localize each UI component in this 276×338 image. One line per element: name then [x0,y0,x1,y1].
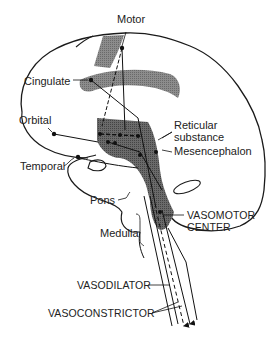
label-vasoconstrictor: VASOCONSTRICTOR [48,307,155,319]
label-pons: Pons [90,194,115,206]
orbital-dot [52,132,56,136]
temporal-dot [76,155,80,159]
label-motor: Motor [117,13,145,25]
label-temporal: Temporal [20,160,65,172]
mesencephalon-dot-2 [113,141,117,145]
label-vasodilator: VASODILATOR [77,279,151,291]
reticular-dot-3 [136,134,140,138]
cingulate-region [80,70,180,98]
vasomotor-dot [158,210,162,214]
mesencephalon-dot-4 [154,150,158,154]
cingulate-dot [89,78,93,82]
label-orbital: Orbital [19,114,51,126]
pons-leader [118,192,130,200]
label-medulla: Medulla [100,227,139,239]
mesencephalon-dot-1 [106,140,110,144]
orbital-pathway [54,134,98,142]
mesencephalon-dot-3 [138,153,142,157]
tract-line-5 [168,228,197,320]
motor-region [94,35,124,68]
orbital-leader [48,128,52,132]
label-vasomotor-2: CENTER [187,221,231,233]
label-vasomotor-1: VASOMOTOR [187,209,255,221]
reticular-leader [158,132,172,140]
reticular-dot-2 [118,133,122,137]
small-oval [172,178,202,197]
motor-pathway-solid [122,48,125,130]
reticular-dot-1 [98,132,102,136]
label-reticular-2: substance [174,131,224,143]
label-reticular-1: Reticular [174,119,217,131]
label-mesencephalon: Mesencephalon [174,145,252,157]
label-cingulate: Cingulate [24,75,70,87]
motor-dot [120,46,124,50]
mesencephalon-leader [162,150,172,152]
